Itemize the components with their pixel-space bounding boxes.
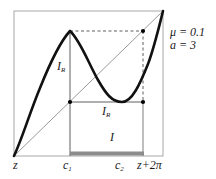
parameter-annotation: μ = 0.1 a = 3 xyxy=(170,26,205,52)
label-interval-ir-lower: IR xyxy=(102,105,110,117)
label-i-base: I xyxy=(110,130,114,144)
axis-label-z-plus-2pi: z+2π xyxy=(137,159,162,171)
label-ir-lower-subscript: R xyxy=(106,111,110,119)
label-interval-ir-upper: IR xyxy=(57,60,65,72)
figure-container: z c1 c2 z+2π IR IR I μ = 0.1 a = 3 xyxy=(0,0,216,179)
axis-label-z: z xyxy=(13,159,18,171)
axis-label-c2: c2 xyxy=(115,159,124,171)
marker-min-image-point xyxy=(141,100,145,104)
axis-label-z-plus-2pi-text: z+2π xyxy=(137,158,162,172)
marker-c1-on-diagonal xyxy=(68,100,72,104)
axis-label-c1-subscript: 1 xyxy=(68,165,72,173)
axis-label-c1: c1 xyxy=(63,159,72,171)
axis-label-z-text: z xyxy=(13,158,18,172)
label-ir-upper-subscript: R xyxy=(61,66,65,74)
label-interval-i: I xyxy=(110,131,114,143)
marker-peak-image-point xyxy=(141,29,145,33)
annotation-a: a = 3 xyxy=(170,39,205,52)
axis-label-c2-subscript: 2 xyxy=(120,165,124,173)
